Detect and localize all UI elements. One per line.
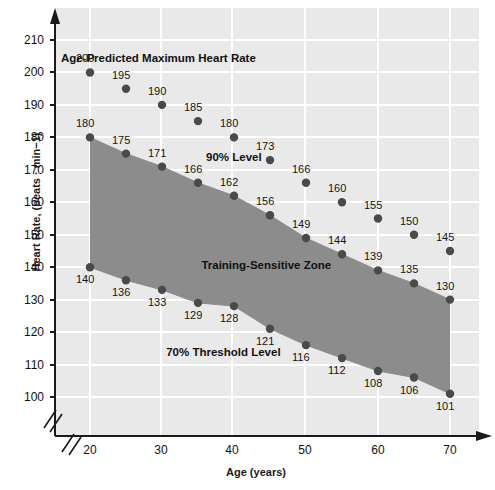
point-label-max-25: 195	[112, 69, 130, 81]
point-label-max-30: 190	[148, 85, 166, 97]
training-zone-annotation: Training-Sensitive Zone	[201, 259, 331, 271]
point-label-ninety-30: 171	[148, 147, 166, 159]
ytick-100: 100	[10, 390, 44, 404]
point-label-max-50: 166	[292, 163, 310, 175]
point-label-ninety-45: 156	[256, 195, 274, 207]
xtick-70: 70	[435, 443, 465, 457]
point-label-seventy-20: 140	[76, 273, 94, 285]
plot-canvas	[0, 0, 495, 490]
point-label-max-20: 200	[76, 52, 94, 64]
point-label-max-55: 160	[328, 182, 346, 194]
point-label-seventy-70: 101	[436, 400, 454, 412]
point-label-max-65: 150	[400, 215, 418, 227]
point-label-seventy-55: 112	[328, 364, 346, 376]
point-label-seventy-50: 116	[292, 351, 310, 363]
point-label-seventy-35: 129	[184, 309, 202, 321]
point-label-ninety-65: 135	[400, 263, 418, 275]
point-label-seventy-45: 121	[256, 335, 274, 347]
point-label-max-45: 173	[256, 140, 274, 152]
point-label-max-60: 155	[364, 199, 382, 211]
point-label-ninety-25: 175	[112, 134, 130, 146]
point-label-seventy-60: 108	[364, 377, 382, 389]
x-axis-arrow	[476, 431, 492, 441]
ytick-190: 190	[10, 98, 44, 112]
ytick-130: 130	[10, 293, 44, 307]
xtick-40: 40	[217, 443, 247, 457]
point-label-max-70: 145	[436, 231, 454, 243]
point-label-seventy-30: 133	[148, 296, 166, 308]
seventy-threshold-annotation: 70% Threshold Level	[166, 346, 280, 358]
ytick-120: 120	[10, 325, 44, 339]
point-label-ninety-20: 180	[76, 117, 94, 129]
y-axis-title: Heart Rate, (beats · min−1)	[30, 122, 42, 282]
point-label-max-35: 185	[184, 101, 202, 113]
point-label-ninety-40: 162	[220, 176, 238, 188]
point-label-seventy-25: 136	[112, 286, 130, 298]
xtick-60: 60	[363, 443, 393, 457]
point-label-seventy-65: 106	[400, 384, 418, 396]
heart-rate-chart: 210 200 190 180 170 160 150 140 130 120 …	[0, 0, 495, 490]
point-label-ninety-35: 166	[184, 163, 202, 175]
point-label-ninety-70: 130	[436, 280, 454, 292]
xtick-30: 30	[146, 443, 176, 457]
x-axis-title: Age (years)	[196, 466, 316, 478]
xtick-50: 50	[290, 443, 320, 457]
point-label-ninety-60: 139	[364, 250, 382, 262]
point-label-ninety-55: 144	[328, 234, 346, 246]
ytick-200: 200	[10, 65, 44, 79]
xtick-20: 20	[75, 443, 105, 457]
point-label-seventy-40: 128	[220, 312, 238, 324]
y-axis-arrow	[50, 8, 60, 24]
ninety-level-annotation: 90% Level	[206, 151, 262, 163]
point-label-max-40: 180	[220, 117, 238, 129]
ytick-210: 210	[10, 33, 44, 47]
point-label-ninety-50: 149	[292, 218, 310, 230]
ytick-110: 110	[10, 358, 44, 372]
